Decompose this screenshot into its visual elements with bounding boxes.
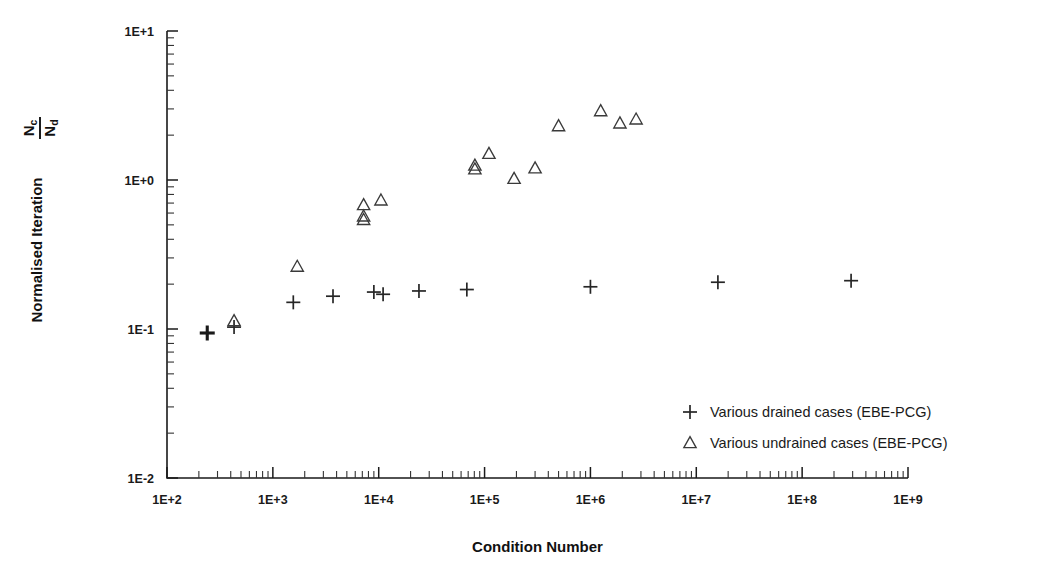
- fraction-denominator-sub: d: [48, 119, 60, 125]
- x-tick-label: 1E+6: [576, 493, 606, 507]
- legend-label: Various undrained cases (EBE-PCG): [710, 435, 947, 451]
- y-axis-title: Normalised Iteration: [28, 177, 45, 322]
- data-point-plus: [583, 280, 597, 294]
- legend-marker-triangle-icon: [684, 437, 696, 448]
- x-tick-label: 1E+3: [258, 493, 288, 507]
- data-point-triangle: [630, 113, 642, 124]
- data-point-triangle: [552, 120, 564, 131]
- data-point-triangle: [357, 210, 369, 221]
- data-point-plus: [286, 295, 300, 309]
- data-point-plus: [326, 289, 340, 303]
- fraction-denominator-text: Nd: [41, 119, 60, 136]
- fraction-numerator-sub: c: [27, 120, 39, 126]
- y-tick-label: 1E+0: [124, 174, 154, 188]
- series-drained: [200, 274, 858, 341]
- y-axis-title-text: Normalised Iteration: [28, 177, 45, 322]
- data-point-triangle: [614, 117, 626, 128]
- data-point-triangle: [469, 163, 481, 174]
- data-point-plus: [376, 287, 390, 301]
- data-point-triangle: [508, 172, 520, 183]
- data-point-triangle: [469, 159, 481, 170]
- data-point-plus: [711, 275, 725, 289]
- x-tick-label: 1E+7: [682, 493, 712, 507]
- scatter-chart: 1E+21E+31E+41E+51E+61E+71E+81E+91E+11E+0…: [0, 0, 1044, 577]
- data-point-plus: [412, 284, 426, 298]
- legend-item: Various undrained cases (EBE-PCG): [684, 435, 948, 451]
- y-axis-fraction: NcNd: [20, 117, 60, 139]
- data-point-triangle: [595, 105, 607, 116]
- fraction-numerator-text: Nc: [20, 120, 39, 137]
- legend-label: Various drained cases (EBE-PCG): [710, 404, 931, 420]
- x-tick-label: 1E+8: [787, 493, 817, 507]
- x-tick-label: 1E+9: [893, 493, 923, 507]
- data-point-plus: [460, 283, 474, 297]
- x-axis-title: Condition Number: [472, 538, 603, 555]
- x-tick-label: 1E+4: [364, 493, 394, 507]
- data-point-triangle: [529, 162, 541, 173]
- chart-root: 1E+21E+31E+41E+51E+61E+71E+81E+91E+11E+0…: [0, 0, 1044, 577]
- data-point-triangle: [357, 199, 369, 210]
- y-tick-label: 1E+1: [124, 25, 154, 39]
- data-points-layer: [200, 105, 858, 341]
- x-tick-label: 1E+2: [152, 493, 182, 507]
- data-point-triangle: [291, 260, 303, 271]
- x-tick-label: 1E+5: [470, 493, 500, 507]
- data-point-triangle: [375, 194, 387, 205]
- data-point-plus: [200, 326, 215, 341]
- y-tick-label: 1E-1: [128, 323, 154, 337]
- series-undrained: [228, 105, 642, 326]
- data-point-plus: [367, 285, 381, 299]
- y-tick-label: 1E-2: [128, 472, 154, 486]
- data-point-triangle: [483, 147, 495, 158]
- chart-legend: Various drained cases (EBE-PCG)Various u…: [683, 404, 947, 451]
- legend-marker-plus-icon: [683, 405, 697, 419]
- data-point-plus: [844, 274, 858, 288]
- chart-canvas: 1E+21E+31E+41E+51E+61E+71E+81E+91E+11E+0…: [0, 0, 1044, 577]
- legend-item: Various drained cases (EBE-PCG): [683, 404, 931, 420]
- fraction-rot: NcNd: [20, 117, 60, 139]
